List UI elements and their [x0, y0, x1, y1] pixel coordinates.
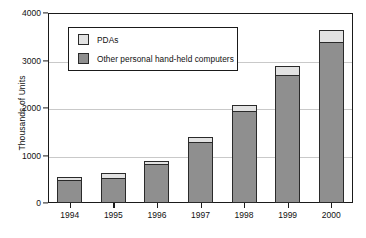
- gridline-2000: [49, 109, 352, 110]
- y-tick-label-2000: 2000: [0, 103, 41, 113]
- x-tick-mark-1997: [201, 203, 202, 208]
- chart-container: Thousands of Units 01000200030004000 199…: [0, 0, 366, 238]
- x-tick-mark-1999: [288, 203, 289, 208]
- y-tick-label-0: 0: [0, 198, 41, 208]
- y-tick-mark-2000: [43, 107, 48, 108]
- legend-item-pdas: PDAs: [78, 34, 118, 45]
- x-tick-mark-1996: [157, 203, 158, 208]
- y-tick-label-4000: 4000: [0, 8, 41, 18]
- y-tick-mark-0: [43, 202, 48, 203]
- x-tick-mark-1995: [113, 203, 114, 208]
- y-tick-mark-3000: [43, 60, 48, 61]
- legend-label-other-handheld: Other personal hand-held computers: [97, 54, 234, 64]
- legend-swatch-other-handheld: [78, 53, 89, 64]
- x-tick-label-1997: 1997: [191, 210, 210, 220]
- x-tick-mark-2000: [331, 203, 332, 208]
- legend-item-other-handheld: Other personal hand-held computers: [78, 53, 234, 64]
- x-tick-mark-1994: [70, 203, 71, 208]
- x-tick-label-1996: 1996: [147, 210, 166, 220]
- x-tick-label-2000: 2000: [322, 210, 341, 220]
- legend-swatch-pdas: [78, 34, 89, 45]
- y-tick-label-3000: 3000: [0, 56, 41, 66]
- chart-legend: PDAs Other personal hand-held computers: [68, 27, 238, 71]
- legend-label-pdas: PDAs: [97, 35, 118, 45]
- y-tick-label-1000: 1000: [0, 151, 41, 161]
- x-tick-label-1998: 1998: [235, 210, 254, 220]
- x-tick-label-1995: 1995: [104, 210, 123, 220]
- y-tick-mark-4000: [43, 12, 48, 13]
- y-tick-mark-1000: [43, 155, 48, 156]
- x-tick-mark-1998: [244, 203, 245, 208]
- x-tick-label-1994: 1994: [60, 210, 79, 220]
- gridline-1000: [49, 157, 352, 158]
- x-tick-label-1999: 1999: [278, 210, 297, 220]
